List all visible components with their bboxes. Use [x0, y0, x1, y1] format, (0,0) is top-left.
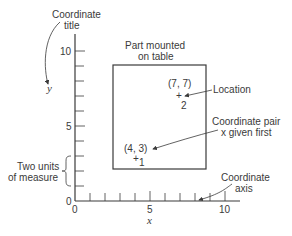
- coordinate-pair-arrow-icon: [153, 130, 218, 149]
- curved-arrow-icon: [45, 22, 60, 84]
- coordinate-diagram: 0 5 10 0 5 10 x y Coordinate title Part …: [0, 0, 292, 236]
- brace-icon: [62, 156, 71, 186]
- coordinate-title-label-line2: title: [64, 20, 80, 31]
- part-mounted-label-line2: on table: [138, 51, 174, 62]
- point-1-number: 1: [139, 157, 145, 168]
- coordinate-title-label-line1: Coordinate: [52, 9, 101, 20]
- coordinate-pair-label-line2: x given first: [221, 127, 272, 138]
- y-tick-10: 10: [60, 46, 72, 57]
- point-2-number: 2: [181, 100, 187, 111]
- location-arrow-icon: [185, 90, 212, 96]
- y-tick-5: 5: [66, 121, 72, 132]
- x-tick-10: 10: [219, 204, 231, 215]
- two-units-label-line2: of measure: [8, 172, 58, 183]
- x-axis-title: x: [146, 214, 152, 226]
- two-units-label-line1: Two units: [17, 161, 59, 172]
- point-2-coords: (7, 7): [168, 78, 191, 89]
- x-axis: [75, 191, 240, 201]
- coordinate-axis-label-line1: Coordinate: [221, 172, 270, 183]
- part-mounted-label-line1: Part mounted: [125, 40, 185, 51]
- y-axis-title: y: [46, 82, 52, 94]
- y-axis: [75, 34, 85, 201]
- coordinate-pair-label-line1: Coordinate pair: [212, 116, 281, 127]
- coordinate-axis-arrow-icon: [199, 184, 232, 200]
- x-tick-0: 0: [72, 204, 78, 215]
- coordinate-axis-label-line2: axis: [235, 183, 253, 194]
- location-label: Location: [213, 84, 251, 95]
